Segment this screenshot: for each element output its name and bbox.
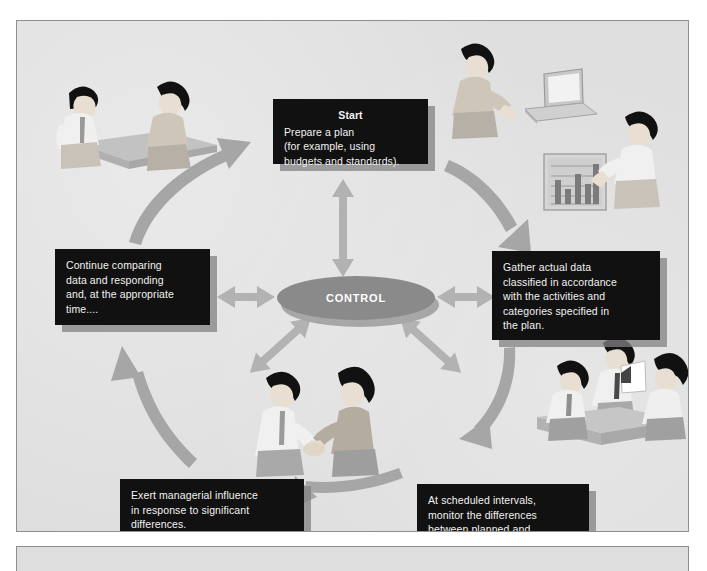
box-monitor-line-1: At scheduled intervals, — [428, 493, 578, 508]
box-start-line-2: (for example, using — [284, 139, 417, 154]
box-continue-line-3: and, at the appropriate — [66, 287, 199, 302]
box-gather-line-5: the plan. — [503, 318, 649, 333]
box-start-line-3: budgets and standards). — [284, 154, 417, 169]
arrow-gather-to-monitor — [459, 347, 515, 449]
control-label: CONTROL — [326, 292, 386, 304]
box-continue-line-4: time.... — [66, 302, 199, 317]
box-gather-line-3: with the activities and — [503, 289, 649, 304]
illustration-person-with-laptop-and-bar-chart — [452, 43, 660, 210]
bar-chart-bars — [555, 164, 599, 204]
arrow-control-to-continue — [217, 286, 275, 308]
next-figure-panel-partial — [16, 546, 689, 571]
box-monitor: At scheduled intervals, monitor the diff… — [417, 484, 589, 532]
box-monitor-line-2: monitor the differences — [428, 508, 578, 523]
box-exert-line-1: Exert managerial influence — [131, 488, 293, 503]
arrow-exert-to-continue — [111, 346, 197, 468]
box-gather-line-2: classified in accordance — [503, 275, 649, 290]
box-gather-line-1: Gather actual data — [503, 260, 649, 275]
illustration-two-people-handshake — [255, 367, 379, 477]
box-gather-line-4: categories specified in — [503, 304, 649, 319]
arrow-topleft-to-start — [129, 138, 251, 245]
diagram-panel: CONTROL Start Prepare a plan (for exampl… — [16, 20, 689, 532]
box-exert-line-2: in response to significant — [131, 503, 293, 518]
arrow-control-to-gather — [437, 286, 495, 308]
box-gather: Gather actual data classified in accorda… — [492, 251, 660, 340]
box-continue-line-1: Continue comparing — [66, 258, 199, 273]
box-exert-line-3: differences. — [131, 517, 293, 532]
box-start: Start Prepare a plan (for example, using… — [273, 99, 428, 164]
control-ellipse: CONTROL — [277, 276, 435, 320]
box-start-line-1: Prepare a plan — [284, 125, 417, 140]
box-start-title: Start — [284, 108, 417, 123]
box-continue-line-2: data and responding — [66, 273, 199, 288]
box-monitor-line-3: between planned and — [428, 522, 578, 532]
illustration-three-people-meeting-with-presenter — [537, 337, 688, 445]
box-exert: Exert managerial influence in response t… — [120, 479, 304, 532]
arrow-start-to-gather — [444, 160, 531, 253]
arrow-control-to-start — [332, 179, 354, 277]
box-continue: Continue comparing data and responding a… — [55, 249, 210, 325]
arrow-monitor-to-exert — [293, 468, 403, 508]
illustration-two-people-at-table-planning — [56, 81, 217, 171]
figure-root: CONTROL Start Prepare a plan (for exampl… — [0, 0, 707, 571]
